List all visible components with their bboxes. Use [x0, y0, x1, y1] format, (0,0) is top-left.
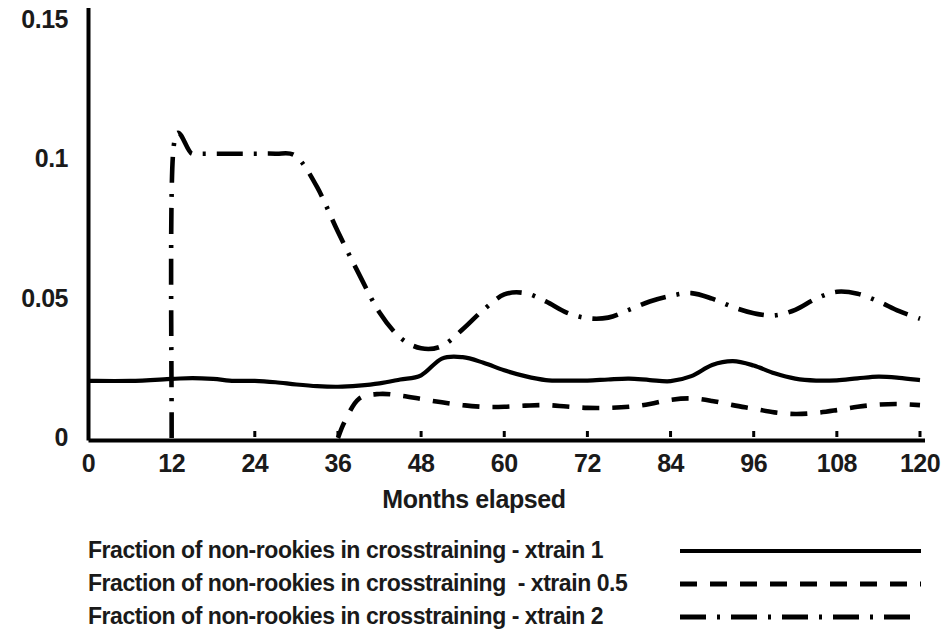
x-tick-label: 0	[44, 449, 134, 478]
y-tick-label: 0	[0, 423, 68, 452]
axis-ticks	[172, 431, 920, 437]
chart-legend: Fraction of non-rookies in crosstraining…	[88, 534, 928, 633]
x-tick-label: 108	[792, 449, 882, 478]
x-tick-label: 48	[376, 449, 466, 478]
legend-label: Fraction of non-rookies in crosstraining…	[88, 570, 678, 597]
x-tick-label: 96	[709, 449, 799, 478]
x-tick-label: 12	[127, 449, 217, 478]
data-series-group	[89, 133, 921, 438]
legend-line-swatch	[678, 605, 923, 629]
x-tick-label: 72	[542, 449, 632, 478]
y-tick-label: 0.05	[0, 284, 68, 313]
x-tick-label: 36	[293, 449, 383, 478]
legend-line-swatch	[678, 539, 923, 563]
series-line-1	[89, 356, 921, 386]
y-tick-label: 0.15	[0, 5, 68, 34]
chart-container: 00.050.10.15 01224364860728496108120 Mon…	[0, 0, 948, 643]
x-tick-label: 120	[875, 449, 948, 478]
series-line-2	[338, 394, 920, 438]
x-tick-label: 84	[626, 449, 716, 478]
legend-label: Fraction of non-rookies in crosstraining…	[88, 537, 678, 564]
x-tick-label: 60	[459, 449, 549, 478]
legend-label: Fraction of non-rookies in crosstraining…	[88, 603, 678, 630]
axis-lines	[89, 8, 926, 441]
y-tick-label: 0.1	[0, 144, 68, 173]
x-tick-label: 24	[210, 449, 300, 478]
legend-item: Fraction of non-rookies in crosstraining…	[88, 600, 928, 633]
series-line-3	[171, 133, 920, 438]
legend-item: Fraction of non-rookies in crosstraining…	[88, 534, 928, 567]
x-axis-title: Months elapsed	[0, 485, 948, 514]
legend-item: Fraction of non-rookies in crosstraining…	[88, 567, 928, 600]
legend-line-swatch	[678, 572, 923, 596]
